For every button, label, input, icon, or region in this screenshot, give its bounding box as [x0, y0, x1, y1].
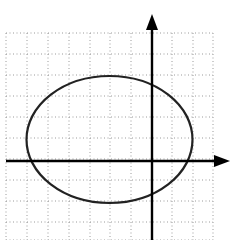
y-axis-arrowhead-icon — [146, 14, 158, 30]
ellipse-graph — [0, 0, 239, 240]
x-axis-arrowhead-icon — [214, 155, 230, 167]
coordinate-plane — [0, 0, 239, 240]
dotted-grid — [6, 33, 213, 240]
